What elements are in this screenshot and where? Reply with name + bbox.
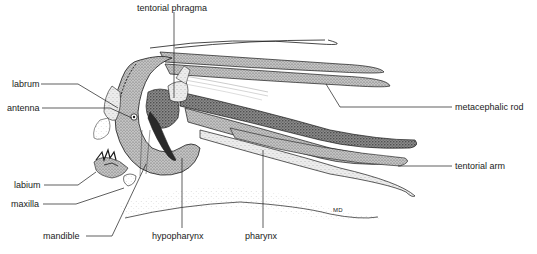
artist-signature: MD — [333, 207, 343, 213]
labium-shape — [94, 158, 128, 179]
diagram-drawing — [0, 0, 537, 254]
label-metacephalic-rod: metacephalic rod — [455, 102, 524, 112]
labrum-shape — [104, 86, 121, 120]
ventral-body — [118, 187, 380, 220]
maxilla-shape — [124, 174, 137, 186]
label-tentorial-arm: tentorial arm — [455, 161, 505, 171]
label-labium: labium — [14, 180, 41, 190]
label-mandible: mandible — [43, 231, 80, 241]
tentorial-phragma-shape — [168, 82, 188, 103]
label-labrum: labrum — [12, 79, 40, 89]
label-tentorial-phragma: tentorial phragma — [137, 3, 207, 13]
anatomical-diagram: tentorial phragma labrum antenna metacep… — [0, 0, 537, 254]
label-maxilla: maxilla — [11, 199, 39, 209]
label-antenna: antenna — [7, 103, 40, 113]
label-pharynx: pharynx — [245, 231, 277, 241]
label-hypopharynx: hypopharynx — [152, 231, 204, 241]
